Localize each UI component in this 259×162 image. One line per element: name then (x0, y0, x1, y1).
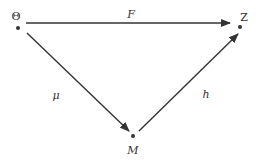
edge-h-label: h (202, 89, 209, 100)
diagram-svg (0, 0, 259, 162)
node-z-label: Z (240, 12, 248, 23)
edge-h-arrow (139, 34, 238, 131)
edge-F-label: F (127, 9, 135, 20)
node-theta-label: Θ (11, 11, 20, 22)
node-m-dot (131, 134, 135, 138)
node-m-label: M (127, 145, 138, 156)
diagram-canvas: Θ Z M F μ h (0, 0, 259, 162)
node-z-dot (238, 25, 242, 29)
node-theta-dot (16, 26, 20, 30)
edge-mu-arrow (27, 33, 129, 131)
edge-mu-label: μ (52, 90, 59, 101)
